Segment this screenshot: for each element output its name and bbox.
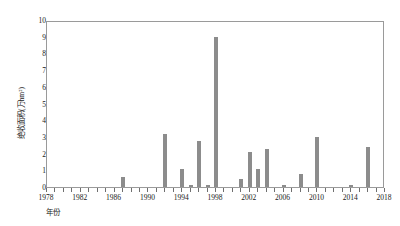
x-axis-tick-label: 2002 (241, 194, 256, 202)
x-axis-tick-mark (71, 188, 72, 192)
x-axis-tick-mark (376, 188, 377, 192)
bar (299, 174, 303, 187)
y-axis-tick-label: 7 (10, 67, 46, 75)
bar (256, 169, 260, 187)
y-axis-tick-label: 8 (10, 51, 46, 59)
x-axis-tick-mark (114, 188, 115, 192)
bar (206, 185, 210, 188)
x-axis-tick-mark (181, 188, 182, 192)
x-axis-tick-mark (300, 188, 301, 192)
y-axis-tick-label: 1 (10, 168, 46, 176)
x-axis-tick-mark (63, 188, 64, 192)
x-axis-tick-mark (240, 188, 241, 192)
y-axis-tick-label: 9 (10, 34, 46, 42)
x-axis-tick-mark (316, 188, 317, 192)
x-axis-tick-mark (139, 188, 140, 192)
bar (189, 185, 193, 187)
x-axis-tick-mark (350, 188, 351, 192)
x-axis-tick-mark (97, 188, 98, 192)
x-axis-tick-mark (105, 188, 106, 192)
x-axis-tick-mark (147, 188, 148, 192)
x-axis-tick-mark (173, 188, 174, 192)
y-axis-tick-label: 0 (10, 184, 46, 192)
bar (121, 177, 125, 187)
x-axis-tick-label: 2006 (275, 194, 290, 202)
x-axis-tick-label: 1978 (39, 194, 54, 202)
x-axis-title: 年份 (46, 206, 60, 217)
bar (366, 147, 370, 187)
y-axis-tick-label: 3 (10, 134, 46, 142)
x-axis-tick-mark (274, 188, 275, 192)
x-axis-tick-mark (367, 188, 368, 192)
x-axis-tick-mark (333, 188, 334, 192)
x-axis-tick-mark (190, 188, 191, 192)
bar (248, 152, 252, 187)
bar (265, 149, 269, 187)
x-axis-tick-mark (266, 188, 267, 192)
x-axis-tick-label: 1990 (140, 194, 155, 202)
y-axis-tick-label: 10 (10, 17, 46, 25)
plot-area (46, 21, 384, 188)
x-axis-tick-mark (223, 188, 224, 192)
x-axis-tick-label: 2018 (377, 194, 392, 202)
x-axis-tick-mark (54, 188, 55, 192)
x-axis-tick-mark (257, 188, 258, 192)
x-axis-tick-mark (232, 188, 233, 192)
x-axis-tick-mark (291, 188, 292, 192)
x-axis-tick-mark (156, 188, 157, 192)
x-axis-tick-mark (198, 188, 199, 192)
chart-figure: 绝收面积(万hm²) 012345678910 1978198219861990… (0, 0, 400, 226)
x-axis-tick-mark (308, 188, 309, 192)
x-axis-tick-mark (215, 188, 216, 192)
x-axis-tick-mark (131, 188, 132, 192)
bar (214, 37, 218, 187)
x-axis-tick-label: 2014 (343, 194, 358, 202)
bar (239, 179, 243, 187)
x-axis-tick-mark (207, 188, 208, 192)
bar (197, 141, 201, 187)
x-axis-tick-mark (46, 188, 47, 192)
x-axis-tick-mark (80, 188, 81, 192)
x-axis-tick-mark (88, 188, 89, 192)
bar (180, 169, 184, 187)
bar (282, 185, 286, 188)
x-axis-tick-label: 1998 (208, 194, 223, 202)
x-axis-tick-mark (359, 188, 360, 192)
bar (349, 185, 353, 187)
x-axis-tick-mark (283, 188, 284, 192)
y-axis-tick-label: 2 (10, 151, 46, 159)
x-axis-tick-mark (122, 188, 123, 192)
y-axis-tick-label: 6 (10, 84, 46, 92)
x-axis-tick-mark (164, 188, 165, 192)
x-axis-tick-mark (249, 188, 250, 192)
y-axis-tick-label: 4 (10, 117, 46, 125)
x-axis-tick-label: 2010 (309, 194, 324, 202)
bar (163, 134, 167, 187)
bar-series (47, 22, 383, 187)
x-axis-tick-label: 1986 (106, 194, 121, 202)
x-axis-tick-label: 1994 (174, 194, 189, 202)
x-axis-tick-mark (325, 188, 326, 192)
x-axis-tick-mark (342, 188, 343, 192)
bar (315, 137, 319, 187)
y-axis-tick-label: 5 (10, 101, 46, 109)
x-axis-tick-label: 1982 (72, 194, 87, 202)
x-axis-tick-mark (384, 188, 385, 192)
